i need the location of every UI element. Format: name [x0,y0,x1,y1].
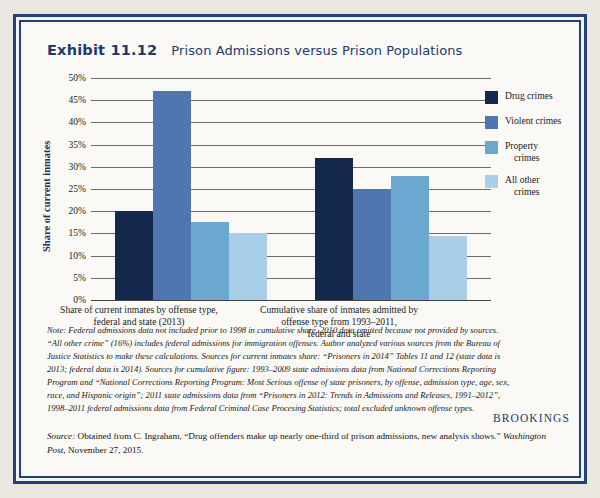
bar-violent-crimes-group-1 [153,91,191,300]
source-date: , November 27, 2015. [63,445,143,455]
legend-label: Propertycrimes [505,140,540,163]
y-axis-tick-label: 5% [73,273,86,283]
bar-all-other-crimes-group-1 [229,233,267,300]
brookings-logo: BROOKINGS [493,412,570,424]
y-axis-tick-label: 45% [69,95,86,105]
legend-item-property-crimes[interactable]: Propertycrimes [485,140,577,163]
legend-item-violent-crimes[interactable]: Violent crimes [485,115,577,129]
y-axis-tick-label: 10% [69,251,86,261]
y-axis-tick-label: 30% [69,162,86,172]
legend-item-all-other-crimes[interactable]: All othercrimes [485,174,577,197]
y-axis-tick-label: 50% [69,73,86,83]
legend-swatch-icon [485,91,498,104]
exhibit-title: Prison Admissions versus Prison Populati… [171,43,462,58]
note-body: Federal admissions data not included pri… [47,325,509,413]
y-axis-tick-label: 40% [69,117,86,127]
chart-legend: Drug crimesViolent crimesPropertycrimesA… [485,90,577,208]
exhibit-outer-border: Exhibit 11.12 Prison Admissions versus P… [13,14,587,484]
exhibit-content: Exhibit 11.12 Prison Admissions versus P… [23,24,577,474]
plot-area: 0%5%10%15%20%25%30%35%40%45%50% [91,78,491,300]
y-axis-tick-label: 35% [69,140,86,150]
y-axis-title: Share of current inmates [37,116,55,276]
source-body: Obtained from C. Ingraham, “Drug offende… [75,431,503,441]
legend-label: Drug crimes [505,90,553,102]
y-axis-tick-label: 15% [69,228,86,238]
exhibit-number: Exhibit 11.12 [47,42,157,58]
legend-swatch-icon [485,141,498,154]
y-axis-tick-label: 25% [69,184,86,194]
bar-drug-crimes-group-2 [315,158,353,300]
legend-swatch-icon [485,116,498,129]
exhibit-source: Source: Obtained from C. Ingraham, “Drug… [47,430,547,458]
exhibit-title-row: Exhibit 11.12 Prison Admissions versus P… [47,42,462,58]
legend-label: All othercrimes [505,174,540,197]
legend-item-drug-crimes[interactable]: Drug crimes [485,90,577,104]
bar-drug-crimes-group-1 [115,211,153,300]
legend-label: Violent crimes [505,115,561,127]
gridline [91,300,491,301]
exhibit-note: Note: Federal admissions data not includ… [47,324,513,415]
bar-property-crimes-group-1 [191,222,229,300]
bar-all-other-crimes-group-2 [429,236,467,300]
bar-property-crimes-group-2 [391,176,429,300]
source-label: Source: [47,431,75,441]
exhibit-inner-border: Exhibit 11.12 Prison Admissions versus P… [19,20,581,478]
bar-violent-crimes-group-2 [353,189,391,300]
legend-swatch-icon [485,175,498,188]
bar-series-group [91,78,491,300]
note-label: Note: [47,325,66,335]
exhibit-page: Exhibit 11.12 Prison Admissions versus P… [0,0,600,498]
x-axis-caption-line: Cumulative share of inmates admitted by [237,304,441,316]
x-axis-caption-line: Share of current inmates by offense type… [41,304,237,316]
y-axis-tick-label: 20% [69,206,86,216]
